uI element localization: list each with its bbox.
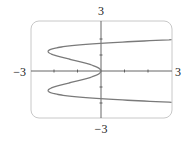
y-max-label: 3 [98,4,104,18]
x-min-label: −3 [13,65,26,79]
y-min-label: −3 [95,122,108,136]
x-max-label: 3 [175,65,181,79]
chart: −3 3 3 −3 [0,0,195,143]
